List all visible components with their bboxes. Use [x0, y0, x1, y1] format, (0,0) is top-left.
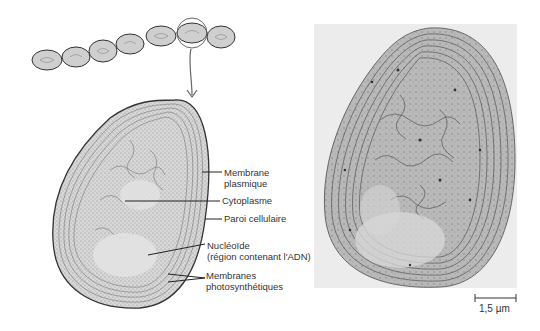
- label-nucleoide: Nucléoïde (région contenant l'ADN): [207, 240, 311, 262]
- label-cytoplasme: Cytoplasme: [222, 195, 272, 206]
- label-membrane-plasmique: Membrane plasmique: [224, 167, 269, 189]
- label-line: Paroi cellulaire: [224, 213, 286, 224]
- label-line: Membrane: [224, 167, 269, 178]
- label-line: photosynthétiques: [206, 281, 283, 292]
- scale-bar: [475, 294, 516, 302]
- label-line: (région contenant l'ADN): [207, 251, 311, 262]
- zoom-arrow: [190, 49, 192, 95]
- label-paroi-cellulaire: Paroi cellulaire: [224, 213, 286, 224]
- drawn-cell: [53, 100, 209, 308]
- cyanobacteria-filament: [32, 18, 235, 97]
- label-line: Cytoplasme: [222, 195, 272, 206]
- label-membranes-photosynthetiques: Membranes photosynthétiques: [206, 270, 283, 292]
- electron-micrograph: [314, 24, 517, 288]
- nucleoid-region: [93, 233, 157, 277]
- label-line: Nucléoïde: [207, 240, 311, 251]
- label-line: Membranes: [206, 270, 283, 281]
- scale-bar-label: 1,5 µm: [479, 303, 510, 314]
- label-line: plasmique: [224, 178, 269, 189]
